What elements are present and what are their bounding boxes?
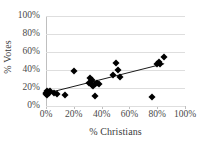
plot-area — [46, 16, 185, 106]
y-tick-label: 60% — [0, 46, 40, 56]
y-tick-label: 100% — [0, 10, 40, 20]
gridline — [46, 106, 185, 107]
y-tick-label: 80% — [0, 28, 40, 38]
y-tick-label: 20% — [0, 82, 40, 92]
x-axis-title: % Christians — [46, 126, 185, 137]
trendline-segment — [46, 64, 164, 94]
x-tick-label: 100% — [165, 109, 205, 119]
y-tick-label: 40% — [0, 64, 40, 74]
x-tick-mark — [185, 106, 186, 109]
scatter-chart: % Votes 0%20%40%60%80%100% 0%20%40%60%80… — [0, 0, 209, 145]
